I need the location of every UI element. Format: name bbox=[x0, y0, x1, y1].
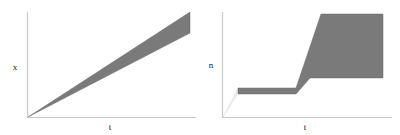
left-y-axis-label: x bbox=[13, 62, 18, 72]
right-y-axis-label: n bbox=[209, 60, 214, 70]
left-x-axis-label: t bbox=[109, 122, 112, 132]
right-x-axis-label: t bbox=[304, 122, 307, 132]
left-plot-panel: x t bbox=[0, 0, 200, 135]
left-uncertainty-band bbox=[28, 12, 190, 117]
right-leading-diagonal bbox=[223, 88, 238, 117]
right-plot-panel: n t bbox=[200, 0, 400, 135]
right-uncertainty-band bbox=[238, 14, 383, 94]
figure-container: x t n t bbox=[0, 0, 400, 135]
